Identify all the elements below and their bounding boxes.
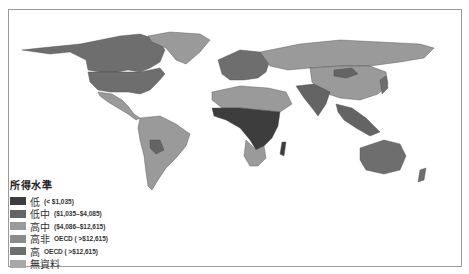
region-new-zealand [418,168,426,182]
legend-item-upper-middle: 高中 ($4,086–$12,615) [10,220,108,233]
region-north-america-north [22,34,165,72]
region-usa [88,68,165,94]
legend-swatch-no-data [10,260,26,268]
legend-label: 無資料 [30,256,60,271]
legend-swatch-high-non-oecd [10,235,26,243]
legend-item-no-data: 無資料 [10,258,108,271]
region-russia [260,40,434,70]
region-australia [360,140,406,174]
legend-swatch-high-oecd [10,247,26,255]
legend-range: OECD ( >$12,615) [54,235,108,242]
region-madagascar [280,142,286,156]
legend-range: (< $1,035) [44,198,74,205]
legend-item-lower-middle: 低中 ($1,035–$4,085) [10,208,108,221]
legend-swatch-low [10,197,26,205]
legend: 所得水準 低 (< $1,035) 低中 ($1,035–$4,085) 高中 … [10,177,108,270]
legend-range: ($1,035–$4,085) [54,210,102,217]
region-south-america [138,116,190,190]
legend-item-low: 低 (< $1,035) [10,195,108,208]
legend-range: OECD ( >$12,615) [44,248,98,255]
legend-swatch-upper-middle [10,222,26,230]
legend-range: ($4,086–$12,615) [54,223,105,230]
legend-swatch-lower-middle [10,210,26,218]
legend-item-high-non-oecd: 高非 OECD ( >$12,615) [10,233,108,246]
region-southeast-asia [336,104,380,136]
legend-title: 所得水準 [10,177,108,192]
region-central-america [98,92,140,120]
